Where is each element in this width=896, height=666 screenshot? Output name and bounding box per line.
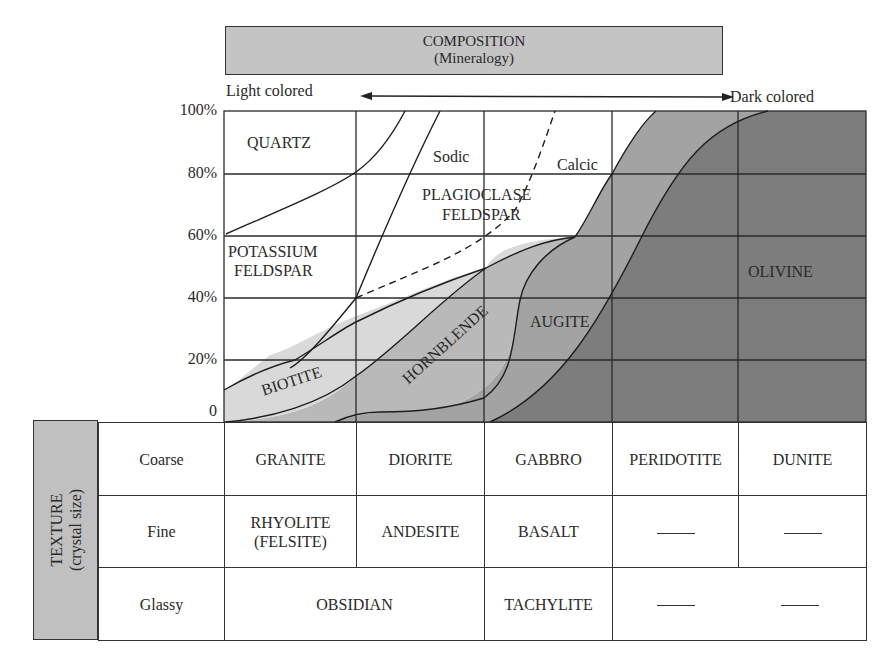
rock-granite: GRANITE [225, 423, 357, 496]
label-quartz: QUARTZ [247, 134, 311, 152]
empty-cell-fine-olivine [739, 496, 867, 568]
label-augite: AUGITE [530, 313, 590, 331]
rock-rhyolite: RHYOLITE (FELSITE) [225, 496, 357, 568]
table-row-coarse: Coarse GRANITE DIORITE GABBRO PERIDOTITE… [99, 423, 867, 496]
dash-icon [784, 533, 822, 534]
label-plagioclase-1: PLAGIOCLASE [422, 186, 531, 204]
rock-peridotite: PERIDOTITE [613, 423, 739, 496]
label-potassium-feldspar-2: FELDSPAR [234, 262, 313, 280]
quartz-boundary [226, 111, 405, 234]
texture-glassy: Glassy [99, 568, 225, 641]
rock-dunite: DUNITE [739, 423, 867, 496]
texture-subtitle: (crystal size) [66, 489, 85, 571]
table-row-fine: Fine RHYOLITE (FELSITE) ANDESITE BASALT [99, 496, 867, 568]
dash-icon [781, 605, 819, 606]
texture-fine: Fine [99, 496, 225, 568]
rock-tachylite: TACHYLITE [485, 568, 613, 641]
label-calcic: Calcic [557, 156, 598, 174]
rock-basalt: BASALT [485, 496, 613, 568]
rock-diorite: DIORITE [357, 423, 485, 496]
rock-gabbro: GABBRO [485, 423, 613, 496]
rock-andesite: ANDESITE [357, 496, 485, 568]
label-olivine: OLIVINE [748, 263, 813, 281]
label-sodic: Sodic [433, 148, 469, 166]
rock-texture-table: Coarse GRANITE DIORITE GABBRO PERIDOTITE… [98, 422, 867, 641]
texture-coarse: Coarse [99, 423, 225, 496]
rock-rhyolite-name: RHYOLITE [225, 513, 356, 532]
label-potassium-feldspar-1: POTASSIUM [228, 243, 317, 261]
empty-cell-glassy [613, 568, 867, 641]
texture-header: TEXTURE (crystal size) [33, 420, 98, 640]
empty-cell-fine-ultramafic [613, 496, 739, 568]
dash-icon [657, 533, 695, 534]
dash-icon [657, 605, 695, 606]
table-row-glassy: Glassy OBSIDIAN TACHYLITE [99, 568, 867, 641]
label-plagioclase-2: FELDSPAR [442, 206, 521, 224]
rock-obsidian: OBSIDIAN [225, 568, 485, 641]
texture-title: TEXTURE [47, 489, 66, 571]
rock-felsite-name: (FELSITE) [225, 532, 356, 551]
double-headed-arrow-icon [360, 92, 734, 101]
